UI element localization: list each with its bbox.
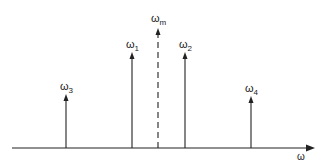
- label-omega-m: ωm: [151, 13, 166, 27]
- label-omega-4: ω4: [245, 83, 258, 97]
- label-omega-2: ω2: [179, 39, 192, 53]
- frequency-axis: [12, 145, 315, 152]
- arrow-omega-3: [64, 94, 69, 148]
- axis-label-omega: ω: [297, 152, 305, 162]
- frequency-spectrum-diagram: ω3 ω1 ωm ω2 ω4 ω: [0, 0, 322, 167]
- label-omega-1: ω1: [126, 39, 139, 53]
- label-omega-3: ω3: [60, 81, 73, 95]
- axis-arrowhead-icon: [306, 145, 315, 152]
- arrow-omega-2: [183, 52, 188, 148]
- arrow-omega-m-dashed: [156, 28, 161, 148]
- arrow-omega-4: [249, 96, 254, 148]
- arrow-omega-1: [130, 52, 135, 148]
